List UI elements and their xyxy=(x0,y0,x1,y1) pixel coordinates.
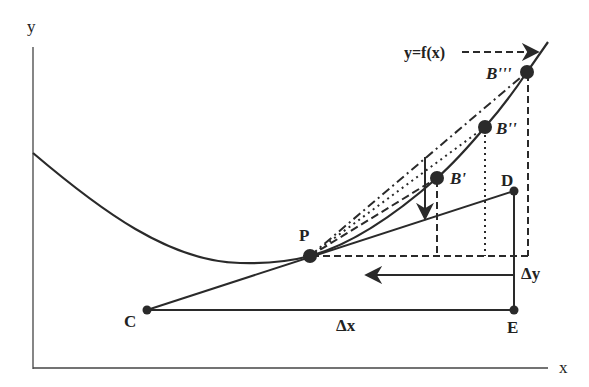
function-curve xyxy=(33,42,548,263)
label-b3: B''' xyxy=(485,64,512,83)
label-delta-x: Δx xyxy=(336,316,356,335)
secant-p-b1 xyxy=(310,178,437,256)
x-axis-label: x xyxy=(559,358,568,377)
label-p: P xyxy=(299,226,309,245)
label-e: E xyxy=(507,318,518,337)
tangent-line xyxy=(147,191,514,310)
curve-label: y=f(x) xyxy=(404,44,445,62)
point-b3 xyxy=(520,65,534,79)
point-c xyxy=(143,306,152,315)
label-delta-y: Δy xyxy=(521,264,541,283)
label-b2: B'' xyxy=(495,119,517,138)
tangent-secant-diagram: y x y=f(x) P B' B'' B''' C D E Δx Δy xyxy=(0,0,589,387)
y-axis-label: y xyxy=(27,17,36,36)
point-b1 xyxy=(430,171,444,185)
secant-p-b3 xyxy=(310,72,527,256)
label-d: D xyxy=(501,171,513,190)
secant-p-b2 xyxy=(310,127,485,256)
label-b1: B' xyxy=(449,169,466,188)
point-e xyxy=(510,306,519,315)
point-b2 xyxy=(478,120,492,134)
point-p xyxy=(303,249,317,263)
label-c: C xyxy=(124,312,136,331)
